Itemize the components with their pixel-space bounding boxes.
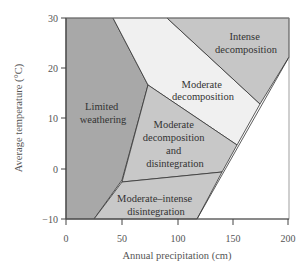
x-tick-label: 150 xyxy=(226,233,241,244)
y-tick-label: −10 xyxy=(42,214,58,225)
y-tick-label: 10 xyxy=(48,113,58,124)
x-tick-label: 50 xyxy=(117,233,127,244)
x-tick-label: 100 xyxy=(171,233,186,244)
x-axis: 0 50 100 150 200 Annual precipitation (c… xyxy=(64,219,296,262)
y-tick-label: 20 xyxy=(48,63,58,74)
y-tick-label: 0 xyxy=(53,164,58,175)
y-axis: 30 20 10 0 −10 Average temperature (°C) xyxy=(13,13,66,225)
y-tick-label: 30 xyxy=(48,13,58,24)
x-axis-title: Annual precipitation (cm) xyxy=(122,250,232,262)
weathering-zone-diagram: 30 20 10 0 −10 Average temperature (°C) … xyxy=(0,0,308,276)
x-tick-label: 0 xyxy=(64,233,69,244)
y-axis-title: Average temperature (°C) xyxy=(13,63,25,172)
x-tick-label: 200 xyxy=(281,233,296,244)
